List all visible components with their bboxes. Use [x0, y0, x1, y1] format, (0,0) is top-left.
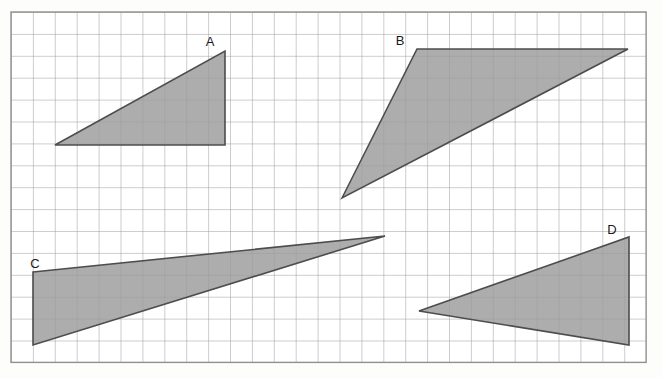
triangle-c-label: C [30, 256, 39, 271]
triangle-a-label: A [206, 34, 215, 49]
triangles-figure: A B C D [0, 0, 663, 379]
figure-canvas: A B C D [0, 0, 663, 379]
triangle-b-label: B [396, 33, 405, 48]
triangle-d-label: D [607, 222, 616, 237]
